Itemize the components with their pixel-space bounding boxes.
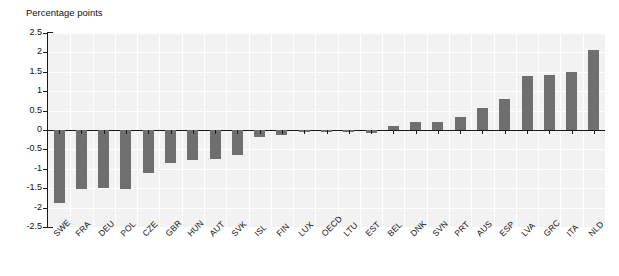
bar-deu bbox=[98, 130, 109, 188]
bar-gbr bbox=[165, 130, 176, 163]
x-tick-fra bbox=[81, 130, 82, 134]
bar-svn bbox=[432, 122, 443, 130]
x-tick-fin bbox=[282, 130, 283, 134]
x-tick-swe bbox=[59, 130, 60, 134]
y-tick-1 bbox=[43, 52, 48, 53]
y-tick-5 bbox=[43, 130, 48, 131]
gridline-y-2 bbox=[48, 52, 605, 53]
bar-aut bbox=[210, 130, 221, 159]
x-tick-nld bbox=[594, 130, 595, 134]
bar-aus bbox=[477, 108, 488, 130]
gridline-y-1_5 bbox=[48, 72, 605, 73]
y-tick-label-0: 2.5 bbox=[29, 28, 42, 37]
y-tick-9 bbox=[43, 208, 48, 209]
x-tick-grc bbox=[549, 130, 550, 134]
y-tick-label-10: -2.5 bbox=[26, 222, 42, 231]
x-tick-svk bbox=[237, 130, 238, 134]
y-tick-label-6: -0.5 bbox=[26, 144, 42, 153]
y-tick-0 bbox=[43, 33, 48, 34]
y-tick-label-7: -1 bbox=[34, 164, 42, 173]
y-tick-7 bbox=[43, 169, 48, 170]
x-tick-lva bbox=[527, 130, 528, 134]
gridline-y-neg1_5 bbox=[48, 188, 605, 189]
bar-fra bbox=[76, 130, 87, 189]
x-tick-hun bbox=[193, 130, 194, 134]
bar-swe bbox=[54, 130, 65, 203]
x-tick-est bbox=[371, 130, 372, 134]
gridline-y-2_5 bbox=[48, 33, 605, 34]
gridline-y-neg0_5 bbox=[48, 149, 605, 150]
y-tick-label-5: 0 bbox=[37, 125, 42, 134]
bar-cze bbox=[143, 130, 154, 173]
y-tick-2 bbox=[43, 72, 48, 73]
y-tick-6 bbox=[43, 149, 48, 150]
x-tick-lux bbox=[304, 130, 305, 134]
x-tick-gbr bbox=[171, 130, 172, 134]
bar-prt bbox=[455, 117, 466, 130]
y-tick-10 bbox=[43, 227, 48, 228]
y-axis-title: Percentage points bbox=[26, 7, 103, 18]
x-tick-svn bbox=[438, 130, 439, 134]
bar-lva bbox=[522, 76, 533, 130]
y-tick-label-2: 1.5 bbox=[29, 67, 42, 76]
bar-esp bbox=[499, 99, 510, 130]
x-tick-prt bbox=[460, 130, 461, 134]
bar-ita bbox=[566, 72, 577, 130]
x-tick-isl bbox=[260, 130, 261, 134]
y-tick-label-4: 0.5 bbox=[29, 106, 42, 115]
y-tick-label-1: 2 bbox=[37, 47, 42, 56]
x-tick-bel bbox=[393, 130, 394, 134]
x-tick-cze bbox=[148, 130, 149, 134]
y-tick-label-9: -2 bbox=[34, 203, 42, 212]
gridline-y-neg2 bbox=[48, 208, 605, 209]
bar-hun bbox=[187, 130, 198, 160]
x-tick-esp bbox=[505, 130, 506, 134]
chart-figure: Percentage points 2.521.510.50-0.5-1-1.5… bbox=[0, 0, 619, 276]
y-tick-3 bbox=[43, 91, 48, 92]
x-tick-dnk bbox=[416, 130, 417, 134]
y-tick-8 bbox=[43, 188, 48, 189]
x-tick-aus bbox=[482, 130, 483, 134]
x-tick-pol bbox=[126, 130, 127, 134]
x-tick-oecd bbox=[327, 130, 328, 134]
y-tick-4 bbox=[43, 111, 48, 112]
x-tick-ita bbox=[572, 130, 573, 134]
x-tick-ltu bbox=[349, 130, 350, 134]
x-tick-deu bbox=[104, 130, 105, 134]
bar-grc bbox=[544, 75, 555, 130]
x-tick-aut bbox=[215, 130, 216, 134]
bar-dnk bbox=[410, 122, 421, 130]
bar-pol bbox=[120, 130, 131, 189]
y-tick-label-8: -1.5 bbox=[26, 183, 42, 192]
gridline-y-neg1 bbox=[48, 169, 605, 170]
y-tick-label-3: 1 bbox=[37, 86, 42, 95]
bar-nld bbox=[588, 50, 599, 130]
